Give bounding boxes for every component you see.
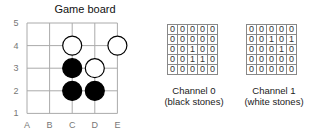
matrix-cell: 0 — [267, 55, 277, 65]
matrix-cell: 1 — [277, 45, 287, 55]
white-stone — [63, 36, 82, 55]
matrix-cell: 1 — [188, 55, 198, 65]
matrix-row: 00000 — [168, 25, 218, 35]
black-stone — [63, 59, 82, 78]
matrix-cell: 0 — [257, 25, 267, 35]
matrix-cell: 0 — [287, 25, 297, 35]
channel-0-matrix: 0000000000001000011000000 — [167, 24, 218, 75]
matrix-cell: 0 — [188, 25, 198, 35]
matrix-cell: 0 — [267, 45, 277, 55]
channel-1-caption: Channel 1 (white stones) — [234, 85, 314, 107]
column-label: B — [47, 120, 53, 130]
matrix-cell: 0 — [198, 35, 208, 45]
matrix-cell: 0 — [208, 55, 218, 65]
row-label: 4 — [13, 41, 18, 51]
matrix-row: 00000 — [168, 65, 218, 75]
matrix-cell: 0 — [277, 25, 287, 35]
matrix-cell: 0 — [208, 65, 218, 75]
white-stone — [85, 59, 104, 78]
matrix-cell: 0 — [277, 35, 287, 45]
matrix-cell: 0 — [247, 35, 257, 45]
matrix-cell: 0 — [198, 25, 208, 35]
matrix-cell: 1 — [188, 45, 198, 55]
channel-1-sublabel: (white stones) — [234, 96, 314, 107]
channel-1-matrix: 0000000101000100000000000 — [246, 24, 297, 75]
matrix-row: 00000 — [168, 35, 218, 45]
matrix-cell: 0 — [277, 65, 287, 75]
matrix-row: 00000 — [247, 25, 297, 35]
matrix-cell: 0 — [178, 25, 188, 35]
black-stone — [85, 81, 104, 100]
matrix-cell: 0 — [168, 25, 178, 35]
matrix-cell: 1 — [198, 55, 208, 65]
matrix-row: 00101 — [247, 35, 297, 45]
matrix-cell: 0 — [287, 55, 297, 65]
channel-0-label: Channel 0 — [154, 85, 234, 96]
matrix-cell: 0 — [168, 55, 178, 65]
matrix-cell: 0 — [178, 35, 188, 45]
matrix-row: 00000 — [247, 65, 297, 75]
matrix-row: 00010 — [247, 45, 297, 55]
row-label: 1 — [13, 108, 18, 118]
matrix-cell: 0 — [178, 55, 188, 65]
game-board: ABCDE54321 — [0, 0, 140, 137]
channel-0-sublabel: (black stones) — [154, 96, 234, 107]
matrix-cell: 0 — [208, 25, 218, 35]
matrix-cell: 0 — [208, 45, 218, 55]
matrix-cell: 0 — [198, 45, 208, 55]
row-label: 2 — [13, 86, 18, 96]
matrix-cell: 0 — [188, 65, 198, 75]
matrix-cell: 0 — [267, 25, 277, 35]
matrix-cell: 0 — [267, 65, 277, 75]
matrix-cell: 0 — [257, 45, 267, 55]
matrix-cell: 0 — [198, 65, 208, 75]
matrix-cell: 0 — [168, 35, 178, 45]
column-label: E — [114, 120, 120, 130]
channel-1-label: Channel 1 — [234, 85, 314, 96]
matrix-cell: 1 — [267, 35, 277, 45]
matrix-cell: 0 — [257, 65, 267, 75]
column-label: D — [92, 120, 99, 130]
matrix-cell: 0 — [247, 55, 257, 65]
matrix-cell: 0 — [277, 55, 287, 65]
matrix-cell: 0 — [188, 35, 198, 45]
row-label: 5 — [13, 18, 18, 28]
matrix-cell: 0 — [287, 45, 297, 55]
matrix-cell: 0 — [287, 65, 297, 75]
matrix-cell: 0 — [208, 35, 218, 45]
matrix-cell: 0 — [178, 65, 188, 75]
matrix-row: 00100 — [168, 45, 218, 55]
black-stone — [63, 81, 82, 100]
row-label: 3 — [13, 63, 18, 73]
white-stone — [108, 36, 127, 55]
channel-0-caption: Channel 0 (black stones) — [154, 85, 234, 107]
matrix-cell: 0 — [247, 45, 257, 55]
matrix-cell: 0 — [168, 45, 178, 55]
matrix-row: 00110 — [168, 55, 218, 65]
matrix-cell: 1 — [287, 35, 297, 45]
matrix-cell: 0 — [168, 65, 178, 75]
matrix-cell: 0 — [247, 25, 257, 35]
matrix-cell: 0 — [257, 55, 267, 65]
column-label: A — [24, 120, 30, 130]
matrix-cell: 0 — [247, 65, 257, 75]
matrix-cell: 0 — [257, 35, 267, 45]
matrix-row: 00000 — [247, 55, 297, 65]
matrix-cell: 0 — [178, 45, 188, 55]
column-label: C — [69, 120, 76, 130]
